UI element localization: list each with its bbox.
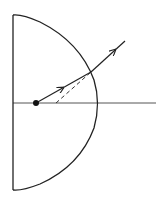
point-object — [33, 100, 39, 106]
hemisphere-refraction-diagram — [0, 0, 162, 202]
incident-ray — [36, 72, 91, 103]
virtual-extension-line — [56, 72, 91, 103]
refracted-ray — [91, 41, 125, 72]
